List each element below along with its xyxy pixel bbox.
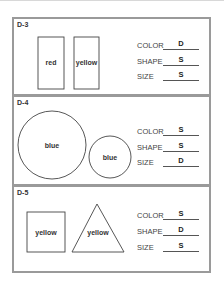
square-shape: yellow [27,212,65,252]
shape-label: yellow [87,229,109,237]
attr-answer-shape: D [163,226,199,236]
attr-answer-shape: S [163,56,199,66]
attr-answer-color: D [163,40,199,50]
worksheet-frame: D-3 red yellow COLOR D SHAPE S SIZE S D-… [12,17,211,273]
attr-label-color: COLOR [137,41,164,50]
attr-value: S [163,70,199,79]
shape-label: red [46,59,57,66]
attr-label-size: SIZE [137,243,154,252]
small-circle-shape: blue [89,136,131,178]
attr-label-shape: SHAPE [137,143,162,152]
attr-label-color: COLOR [137,211,164,220]
panel-d3: D-3 red yellow COLOR D SHAPE S SIZE S [14,19,209,94]
attr-value: S [163,141,199,150]
attr-value: S [163,209,199,218]
attr-answer-shape: S [163,142,199,152]
attr-value: D [163,156,199,165]
panel-d4: D-4 blue blue COLOR S SHAPE S SIZE D [14,97,209,184]
shapes-area: blue blue [14,97,134,184]
shape-label: yellow [76,59,98,67]
attr-answer-size: S [163,242,199,252]
attr-value: S [163,55,199,64]
attr-value: S [163,125,199,134]
panel-d5: D-5 yellow yellow COLOR S SHAPE D SIZE S [14,187,209,271]
attr-answer-size: D [163,157,199,167]
attr-answer-size: S [163,71,199,81]
rectangle-shape: yellow [74,37,99,89]
shapes-area: yellow yellow [14,187,134,271]
attr-label-size: SIZE [137,158,154,167]
shape-label: blue [103,154,117,161]
shape-label: yellow [35,229,57,237]
attr-value: D [163,225,199,234]
triangle-shape: yellow [72,204,124,252]
attr-value: S [163,241,199,250]
attr-label-shape: SHAPE [137,227,162,236]
attr-answer-color: S [163,126,199,136]
shapes-area: red yellow [14,19,134,94]
attr-label-shape: SHAPE [137,57,162,66]
rectangle-shape: red [38,37,64,89]
attr-value: D [163,39,199,48]
attr-label-size: SIZE [137,72,154,81]
shape-label: blue [45,142,59,149]
attr-label-color: COLOR [137,127,164,136]
large-circle-shape: blue [18,111,86,179]
attr-answer-color: S [163,210,199,220]
top-rule [0,0,224,1]
